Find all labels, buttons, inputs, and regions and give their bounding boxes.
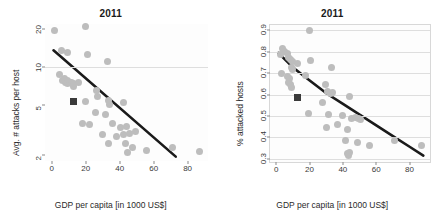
y-axis-label-left: Avg. # attacks per host: [12, 40, 21, 156]
data-point: [132, 128, 139, 135]
x-tick-label: 20: [305, 166, 314, 174]
data-point: [75, 79, 82, 86]
y-tick-label: 0.8: [260, 43, 268, 61]
data-point: [342, 137, 349, 144]
x-tick-label: 40: [115, 165, 124, 173]
x-tick-label: 0: [274, 166, 278, 174]
data-point: [346, 93, 353, 100]
y-tick-label: 10: [35, 58, 43, 76]
data-point: [92, 109, 99, 116]
data-point: [99, 131, 106, 138]
data-point: [357, 116, 364, 123]
x-tick-label: 80: [405, 166, 414, 174]
y-tick-label: 0.7: [260, 64, 268, 82]
data-point: [344, 126, 351, 133]
data-point: [323, 124, 330, 131]
data-point: [79, 120, 86, 127]
y-tick-label: 0.5: [260, 107, 268, 125]
x-axis-label-right: GDP per capita [in 1000 US$]: [222, 200, 443, 210]
x-tick-label: 0: [50, 165, 54, 173]
data-point: [104, 58, 111, 65]
panel-title-right: 2011: [222, 8, 443, 19]
x-tick-label: 60: [372, 166, 381, 174]
data-point: [288, 84, 295, 91]
y-tick-label: 0.3: [260, 150, 268, 168]
trend-line-path: [278, 53, 423, 156]
panel-percent-attacked-hosts: 2011 % attacked hosts 0.30.40.50.60.70.8…: [222, 0, 443, 218]
x-tick-label: 80: [183, 165, 192, 173]
plot-area-left: 251020020406080: [45, 24, 208, 161]
data-point: [122, 140, 129, 147]
data-point: [82, 23, 89, 30]
gridline: [45, 67, 208, 68]
x-tick-label: 60: [149, 165, 158, 173]
data-point: [366, 142, 373, 149]
gridline: [270, 30, 430, 31]
y-tick-label: 0.6: [260, 86, 268, 104]
data-point: [105, 140, 112, 147]
data-point: [109, 120, 116, 127]
data-point: [418, 142, 425, 149]
data-point: [106, 101, 113, 108]
data-point: [129, 144, 136, 151]
data-point: [325, 111, 332, 118]
highlight-marker: [294, 94, 301, 101]
data-point: [391, 137, 398, 144]
x-tick-label: 20: [81, 165, 90, 173]
gridline: [270, 159, 430, 160]
x-tick-label: 40: [338, 166, 347, 174]
data-point: [64, 49, 71, 56]
data-point: [319, 99, 326, 106]
data-point: [307, 57, 314, 64]
y-tick-label: 0.9: [260, 21, 268, 39]
data-point: [302, 72, 309, 79]
figure-two-panel-scatter: 2011 Avg. # attacks per host 25102002040…: [0, 0, 443, 218]
data-point: [143, 147, 150, 154]
y-axis-label-right: % attacked hosts: [236, 50, 245, 146]
gridline: [270, 52, 430, 53]
panel-avg-attacks-per-host: 2011 Avg. # attacks per host 25102002040…: [0, 0, 222, 218]
panel-title-left: 2011: [0, 8, 222, 19]
data-point: [86, 121, 93, 128]
y-tick-label: 5: [35, 96, 43, 114]
y-tick-label: 0.4: [260, 128, 268, 146]
data-point: [328, 64, 335, 71]
data-point: [169, 144, 176, 151]
x-axis-label-left: GDP per capita [in 1000 US$]: [0, 200, 222, 210]
data-point: [306, 27, 313, 34]
data-point: [123, 123, 130, 130]
data-point: [120, 99, 127, 106]
y-tick-label: 2: [35, 146, 43, 164]
highlight-marker: [70, 98, 77, 105]
data-point: [354, 139, 361, 146]
data-point: [51, 27, 58, 34]
data-point: [277, 51, 284, 58]
plot-area-right: 0.30.40.50.60.70.80.9020406080: [269, 24, 431, 163]
y-tick-label: 20: [35, 20, 43, 38]
data-point: [102, 111, 109, 118]
data-point: [94, 93, 101, 100]
data-point: [334, 121, 341, 128]
data-point: [294, 60, 301, 67]
gridline: [270, 137, 430, 138]
data-point: [113, 133, 120, 140]
data-point: [82, 98, 89, 105]
gridline: [270, 73, 430, 74]
data-point: [84, 51, 91, 58]
data-point: [339, 112, 346, 119]
data-point: [196, 148, 203, 155]
